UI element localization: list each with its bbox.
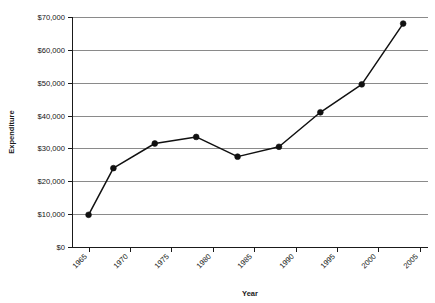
y-tick-label-0: $0 [57,243,65,252]
axes-group [72,17,428,248]
data-point-2003 [400,21,406,27]
x-tick-label-8: 2005 [402,252,420,270]
x-axis-title: Year [242,289,258,298]
data-point-1968 [111,165,117,171]
x-tick-label-3: 1980 [195,252,213,270]
x-tick-label-4: 1985 [236,252,254,270]
y-tick-label-7: $70,000 [38,13,65,22]
y-tick-label-2: $20,000 [38,177,65,186]
x-tick-label-5: 1990 [278,252,296,270]
y-tick-label-1: $10,000 [38,210,65,219]
x-tick-label-1: 1970 [112,252,130,270]
data-point-1965 [86,212,92,218]
y-ticks-group: $0$10,000$20,000$30,000$40,000$50,000$60… [38,13,72,252]
y-tick-label-4: $40,000 [38,112,65,121]
y-tick-label-5: $50,000 [38,79,65,88]
data-point-1983 [235,154,241,160]
data-point-1998 [359,81,365,87]
line-chart: $0$10,000$20,000$30,000$40,000$50,000$60… [0,0,435,303]
chart-canvas: $0$10,000$20,000$30,000$40,000$50,000$60… [0,0,435,303]
axis-titles-group: ExpenditureYear [7,110,258,298]
x-tick-label-0: 1965 [71,252,89,270]
data-point-1978 [193,134,199,140]
y-tick-label-3: $30,000 [38,144,65,153]
y-axis-title: Expenditure [7,110,16,153]
x-tick-label-7: 2000 [360,252,378,270]
x-tick-label-2: 1975 [153,252,171,270]
series-line-expenditure [89,24,404,215]
x-ticks-group: 196519701975198019851990199520002005 [71,247,421,270]
data-point-1993 [317,109,323,115]
gridlines-group [72,18,428,215]
data-point-1973 [152,141,158,147]
x-tick-label-6: 1995 [319,252,337,270]
y-tick-label-6: $60,000 [38,46,65,55]
data-point-1988 [276,144,282,150]
